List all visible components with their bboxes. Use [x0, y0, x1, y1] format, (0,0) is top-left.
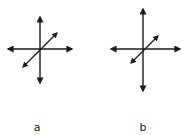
panel-b-label: b: [140, 121, 147, 134]
vector-diagram: a b: [0, 0, 183, 135]
panel-a-label: a: [34, 121, 41, 134]
panel-b: b: [111, 9, 180, 134]
panel-a: a: [8, 17, 72, 134]
